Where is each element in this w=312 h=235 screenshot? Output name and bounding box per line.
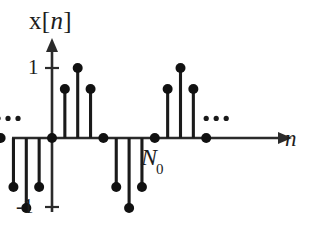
stem-marker xyxy=(0,133,6,143)
stem-marker xyxy=(188,84,198,94)
ellipsis-left-dot xyxy=(5,116,10,121)
ellipsis-left-dot xyxy=(0,116,1,121)
period-marker-base: N xyxy=(141,144,157,170)
plot-canvas xyxy=(0,0,312,235)
y-axis-title-label: x[n] xyxy=(29,8,72,33)
stem-marker xyxy=(201,133,211,143)
stem-marker xyxy=(176,63,186,73)
ellipsis-right-dot xyxy=(204,116,209,121)
ellipsis-right-dot xyxy=(214,116,219,121)
stem-marker xyxy=(34,182,44,192)
stem-marker xyxy=(150,133,160,143)
y-axis-arrowhead xyxy=(46,38,58,52)
stem-marker xyxy=(111,182,121,192)
title-text-x: x[ xyxy=(29,7,50,34)
ellipsis-left-dot xyxy=(15,116,20,121)
y-tick-label-negative-one: -1 xyxy=(16,196,34,217)
period-marker-label: N0 xyxy=(141,145,165,174)
axes-group xyxy=(12,38,292,212)
title-text-n: n xyxy=(50,7,63,34)
stem-marker xyxy=(8,182,18,192)
stem-marker xyxy=(86,84,96,94)
stem-marker xyxy=(47,133,57,143)
stem-marker xyxy=(137,182,147,192)
ellipsis-right-dot xyxy=(224,116,229,121)
stem-marker xyxy=(163,84,173,94)
stem-marker xyxy=(60,84,70,94)
period-marker-subscript: 0 xyxy=(156,161,164,177)
stem-plot-figure: x[n] 1 -1 n N0 xyxy=(0,0,312,235)
x-axis-title-label: n xyxy=(285,127,297,150)
stem-marker xyxy=(73,63,83,73)
stem-marker xyxy=(124,203,134,213)
stem-marker xyxy=(98,133,108,143)
title-text-bracket: ] xyxy=(63,7,72,34)
y-tick-label-one: 1 xyxy=(28,57,39,78)
